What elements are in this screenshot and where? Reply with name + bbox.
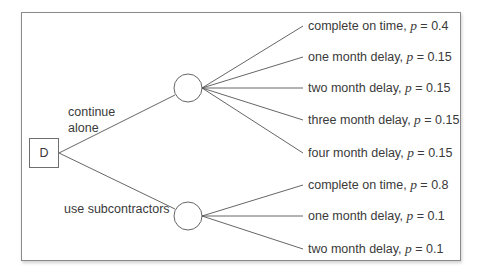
outcome-label: one month delay, p = 0.15 xyxy=(308,50,452,64)
outcome-label: two month delay, p = 0.15 xyxy=(308,81,450,95)
outcome-label: four month delay, p = 0.15 xyxy=(308,146,452,160)
chance-node-continue xyxy=(174,74,202,102)
edge-outcome xyxy=(202,26,303,88)
option-label-continue-line1: continue xyxy=(68,105,115,119)
edge-outcome xyxy=(202,88,303,153)
tree-edges xyxy=(0,0,479,278)
outcome-label: two month delay, p = 0.1 xyxy=(308,242,443,256)
outcome-label: three month delay, p = 0.15 xyxy=(308,113,459,127)
option-label-subcontractors: use subcontractors xyxy=(64,202,170,216)
edge-outcome xyxy=(202,57,303,88)
chance-node-subcontract xyxy=(174,202,202,230)
option-label-continue-line2: alone xyxy=(68,121,99,135)
edge-outcome xyxy=(202,216,303,249)
outcome-label: complete on time, p = 0.4 xyxy=(308,19,449,33)
edge-outcome xyxy=(202,88,303,120)
decision-node-label: D xyxy=(39,146,48,160)
outcome-label: complete on time, p = 0.8 xyxy=(308,178,449,192)
edge-use-subcontractors xyxy=(59,153,175,209)
decision-node: D xyxy=(29,138,59,168)
outcome-label: one month delay, p = 0.1 xyxy=(308,209,445,223)
edge-outcome xyxy=(202,185,303,216)
